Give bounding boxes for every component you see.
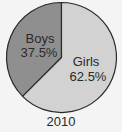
boys-percentage: 37.5% bbox=[16, 46, 62, 60]
chart-title-year: 2010 bbox=[36, 115, 86, 129]
boys-label: Boys bbox=[20, 32, 60, 46]
girls-label: Girls bbox=[66, 55, 106, 69]
girls-percentage: 62.5% bbox=[64, 70, 112, 84]
